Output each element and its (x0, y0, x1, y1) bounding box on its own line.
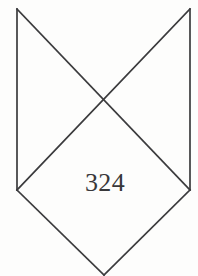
lower-left-edge (17, 190, 104, 275)
lower-right-edge (104, 190, 190, 275)
geometric-figure-canvas: 324 (0, 0, 198, 276)
figure-drawing (0, 0, 198, 276)
